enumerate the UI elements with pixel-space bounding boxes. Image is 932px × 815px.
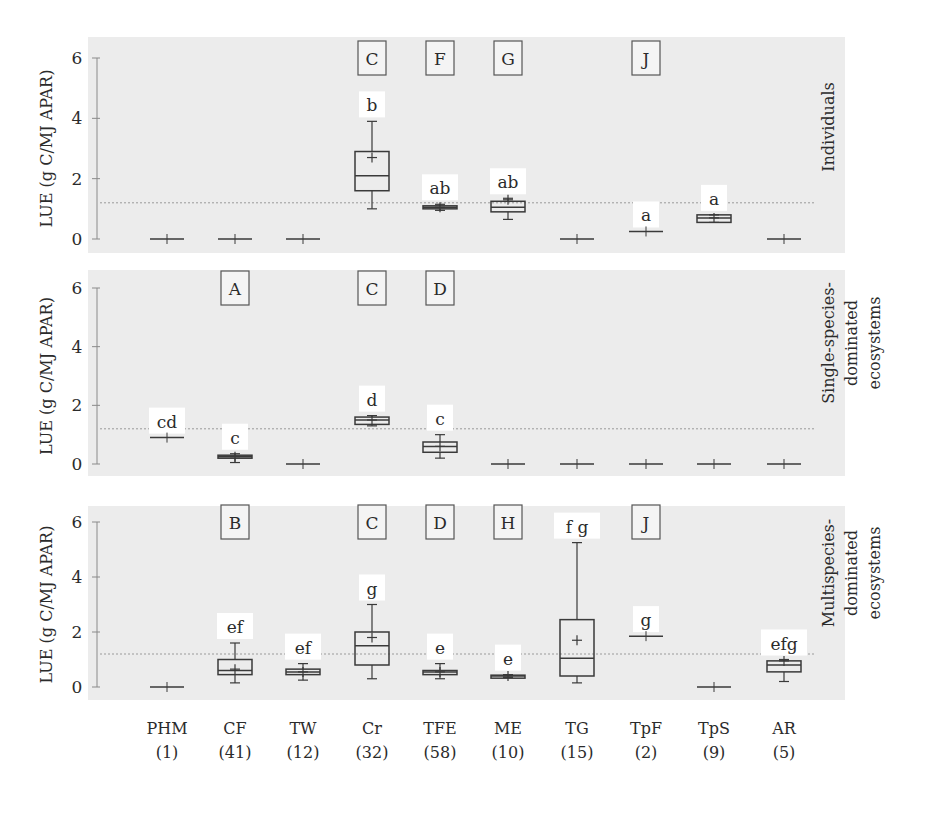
y-axis-label: LUE (g C/MJ APAR) [37, 70, 56, 228]
box-phm: cd [149, 408, 185, 443]
significance-label: b [367, 95, 378, 115]
group-letter: J [641, 513, 650, 533]
significance-label: d [367, 390, 378, 410]
group-letter: A [228, 279, 242, 299]
significance-label: f g [566, 517, 589, 537]
box-tpf: g [629, 606, 663, 641]
significance-label: efg [770, 634, 797, 654]
significance-label: g [641, 610, 652, 630]
group-letter: J [641, 49, 650, 69]
group-letter: G [501, 49, 515, 69]
panel-label-line: dominated [842, 300, 861, 386]
panel-label-line: Single-species- [819, 282, 838, 404]
y-tick-label: 6 [72, 512, 83, 532]
group-letter: C [365, 49, 378, 69]
x-category-count: (1) [156, 743, 179, 762]
panel-label-line: ecosystems [865, 527, 884, 620]
y-tick-label: 2 [72, 622, 83, 642]
box-tfe: e [423, 634, 457, 679]
x-category-count: (5) [773, 743, 796, 762]
x-category-label: TFE [423, 719, 456, 738]
x-category-count: (32) [356, 743, 389, 762]
significance-label: cd [157, 412, 178, 432]
x-category-label: CF [223, 719, 246, 738]
y-tick-label: 0 [72, 677, 83, 697]
significance-label: e [435, 638, 445, 658]
significance-label: e [503, 649, 513, 669]
x-category-count: (2) [635, 743, 658, 762]
panel-label-line: dominated [842, 530, 861, 616]
y-tick-label: 6 [72, 278, 83, 298]
y-tick-label: 2 [72, 169, 83, 189]
panel-multispecies-dominated-ecosystems: 0246LUE (g C/MJ APAR)efefgeef ggefgBCDHJ… [37, 505, 884, 700]
box-tps: a [697, 185, 731, 223]
x-category-label: TpS [698, 719, 730, 738]
x-category-label: TG [565, 719, 588, 738]
panel-background [88, 506, 845, 700]
group-letter: D [433, 279, 447, 299]
y-axis-label: LUE (g C/MJ APAR) [37, 526, 56, 684]
panel-individuals: 0246LUE (g C/MJ APAR)bababaaCFGJIndividu… [37, 37, 845, 253]
x-category-label: TW [289, 719, 317, 738]
box-tpf: a [629, 201, 663, 236]
x-category-count: (41) [219, 743, 252, 762]
y-tick-label: 0 [72, 454, 83, 474]
group-letter: D [433, 513, 447, 533]
x-category-label: ME [494, 719, 522, 738]
box-cf: c [218, 424, 252, 463]
x-category-count: (15) [561, 743, 594, 762]
box-tfe: ab [422, 174, 458, 212]
x-category-count: (12) [287, 743, 320, 762]
lue-boxplot-figure: 0246LUE (g C/MJ APAR)bababaaCFGJIndividu… [0, 0, 932, 815]
x-category-count: (9) [703, 743, 726, 762]
significance-label: g [367, 579, 378, 599]
x-category-label: PHM [146, 719, 187, 738]
significance-label: ab [429, 178, 450, 198]
significance-label: c [435, 409, 445, 429]
significance-label: a [641, 205, 651, 225]
significance-label: a [709, 189, 719, 209]
significance-label: ef [227, 617, 245, 637]
panel-label-line: ecosystems [865, 297, 884, 390]
y-axis-label: LUE (g C/MJ APAR) [37, 297, 56, 455]
x-category-count: (10) [492, 743, 525, 762]
significance-label: ab [497, 172, 518, 192]
y-tick-label: 6 [72, 48, 83, 68]
y-tick-label: 2 [72, 395, 83, 415]
box-cr: d [355, 386, 389, 426]
y-tick-label: 0 [72, 229, 83, 249]
group-letter: B [229, 513, 242, 533]
group-letter: H [501, 513, 516, 533]
panel-single-species-dominated-ecosystems: 0246LUE (g C/MJ APAR)cdcdcACDSingle-spec… [37, 270, 884, 476]
x-category-count: (58) [424, 743, 457, 762]
x-category-label: AR [771, 719, 797, 738]
x-category-label: TpF [630, 719, 662, 738]
x-category-label: Cr [362, 719, 382, 738]
group-letter: C [365, 279, 378, 299]
significance-label: c [230, 428, 240, 448]
panel-label-line: Individuals [819, 82, 838, 172]
significance-label: ef [295, 638, 313, 658]
group-letter: C [365, 513, 378, 533]
panel-label-line: Multispecies- [819, 519, 838, 627]
y-tick-label: 4 [72, 108, 83, 128]
box-me: ab [490, 168, 526, 219]
box-me: e [491, 645, 525, 681]
panel-background [88, 270, 845, 476]
y-tick-label: 4 [72, 337, 83, 357]
y-tick-label: 4 [72, 567, 83, 587]
group-letter: F [434, 49, 446, 69]
